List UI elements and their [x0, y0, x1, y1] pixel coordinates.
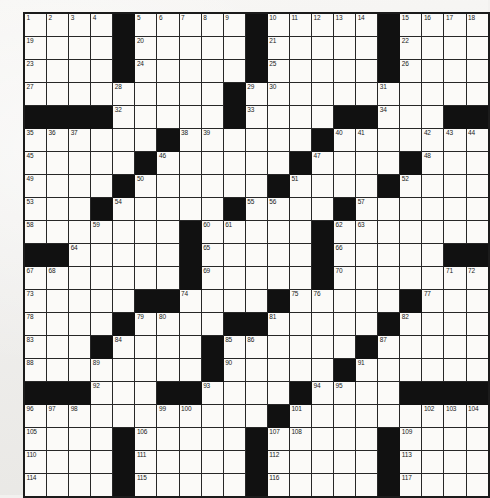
letter-cell[interactable]: 8: [201, 13, 223, 37]
letter-cell[interactable]: [267, 359, 289, 382]
letter-cell[interactable]: 76: [312, 290, 334, 313]
letter-cell[interactable]: 52: [400, 175, 422, 198]
letter-cell[interactable]: [223, 451, 245, 474]
letter-cell[interactable]: 108: [289, 428, 311, 451]
letter-cell[interactable]: [356, 83, 378, 106]
letter-cell[interactable]: [91, 244, 113, 267]
letter-cell[interactable]: 71: [444, 267, 466, 290]
letter-cell[interactable]: [69, 336, 91, 359]
letter-cell[interactable]: [179, 83, 201, 106]
letter-cell[interactable]: [312, 428, 334, 451]
letter-cell[interactable]: [69, 152, 91, 175]
letter-cell[interactable]: [91, 37, 113, 60]
letter-cell[interactable]: [47, 290, 69, 313]
letter-cell[interactable]: 77: [422, 290, 444, 313]
letter-cell[interactable]: 93: [201, 382, 223, 405]
letter-cell[interactable]: [179, 428, 201, 451]
letter-cell[interactable]: [289, 359, 311, 382]
letter-cell[interactable]: [245, 382, 267, 405]
letter-cell[interactable]: [245, 290, 267, 313]
letter-cell[interactable]: [289, 267, 311, 290]
letter-cell[interactable]: [91, 405, 113, 428]
letter-cell[interactable]: [422, 106, 444, 129]
letter-cell[interactable]: 10: [267, 13, 289, 37]
letter-cell[interactable]: [422, 175, 444, 198]
letter-cell[interactable]: 18: [466, 13, 489, 37]
letter-cell[interactable]: [157, 83, 179, 106]
letter-cell[interactable]: [69, 474, 91, 498]
letter-cell[interactable]: [157, 37, 179, 60]
letter-cell[interactable]: 69: [201, 267, 223, 290]
letter-cell[interactable]: [179, 336, 201, 359]
letter-cell[interactable]: [91, 313, 113, 336]
letter-cell[interactable]: 62: [334, 221, 356, 244]
letter-cell[interactable]: [312, 60, 334, 83]
letter-cell[interactable]: [223, 474, 245, 498]
letter-cell[interactable]: 55: [245, 198, 267, 221]
letter-cell[interactable]: 44: [466, 129, 489, 152]
letter-cell[interactable]: [179, 474, 201, 498]
letter-cell[interactable]: 112: [267, 451, 289, 474]
letter-cell[interactable]: 5: [135, 13, 157, 37]
letter-cell[interactable]: [135, 405, 157, 428]
letter-cell[interactable]: [201, 405, 223, 428]
letter-cell[interactable]: [267, 221, 289, 244]
letter-cell[interactable]: 97: [47, 405, 69, 428]
letter-cell[interactable]: [466, 359, 489, 382]
letter-cell[interactable]: [356, 382, 378, 405]
letter-cell[interactable]: 105: [24, 428, 47, 451]
letter-cell[interactable]: [400, 405, 422, 428]
letter-cell[interactable]: [466, 175, 489, 198]
letter-cell[interactable]: [157, 244, 179, 267]
letter-cell[interactable]: [312, 198, 334, 221]
letter-cell[interactable]: [157, 267, 179, 290]
letter-cell[interactable]: 60: [201, 221, 223, 244]
letter-cell[interactable]: 26: [400, 60, 422, 83]
letter-cell[interactable]: 64: [69, 244, 91, 267]
letter-cell[interactable]: 101: [289, 405, 311, 428]
letter-cell[interactable]: [444, 60, 466, 83]
letter-cell[interactable]: [422, 198, 444, 221]
letter-cell[interactable]: 22: [400, 37, 422, 60]
letter-cell[interactable]: [223, 382, 245, 405]
letter-cell[interactable]: 107: [267, 428, 289, 451]
letter-cell[interactable]: [47, 37, 69, 60]
letter-cell[interactable]: [444, 451, 466, 474]
letter-cell[interactable]: [267, 129, 289, 152]
letter-cell[interactable]: 25: [267, 60, 289, 83]
letter-cell[interactable]: [245, 405, 267, 428]
letter-cell[interactable]: 114: [24, 474, 47, 498]
letter-cell[interactable]: [378, 198, 400, 221]
letter-cell[interactable]: 96: [24, 405, 47, 428]
letter-cell[interactable]: 68: [47, 267, 69, 290]
letter-cell[interactable]: [444, 474, 466, 498]
letter-cell[interactable]: 15: [400, 13, 422, 37]
letter-cell[interactable]: [422, 83, 444, 106]
letter-cell[interactable]: [91, 60, 113, 83]
letter-cell[interactable]: [91, 290, 113, 313]
letter-cell[interactable]: [245, 221, 267, 244]
letter-cell[interactable]: 116: [267, 474, 289, 498]
letter-cell[interactable]: 27: [24, 83, 47, 106]
letter-cell[interactable]: [289, 83, 311, 106]
letter-cell[interactable]: [69, 60, 91, 83]
letter-cell[interactable]: [47, 221, 69, 244]
letter-cell[interactable]: [267, 152, 289, 175]
letter-cell[interactable]: [201, 175, 223, 198]
letter-cell[interactable]: [201, 428, 223, 451]
letter-cell[interactable]: [400, 106, 422, 129]
letter-cell[interactable]: [267, 106, 289, 129]
letter-cell[interactable]: [69, 359, 91, 382]
letter-cell[interactable]: [179, 106, 201, 129]
letter-cell[interactable]: 81: [267, 313, 289, 336]
letter-cell[interactable]: 9: [223, 13, 245, 37]
letter-cell[interactable]: [267, 336, 289, 359]
letter-cell[interactable]: 110: [24, 451, 47, 474]
letter-cell[interactable]: [157, 175, 179, 198]
letter-cell[interactable]: [113, 405, 135, 428]
letter-cell[interactable]: 35: [24, 129, 47, 152]
letter-cell[interactable]: [201, 37, 223, 60]
letter-cell[interactable]: [47, 198, 69, 221]
letter-cell[interactable]: [201, 106, 223, 129]
letter-cell[interactable]: [245, 244, 267, 267]
